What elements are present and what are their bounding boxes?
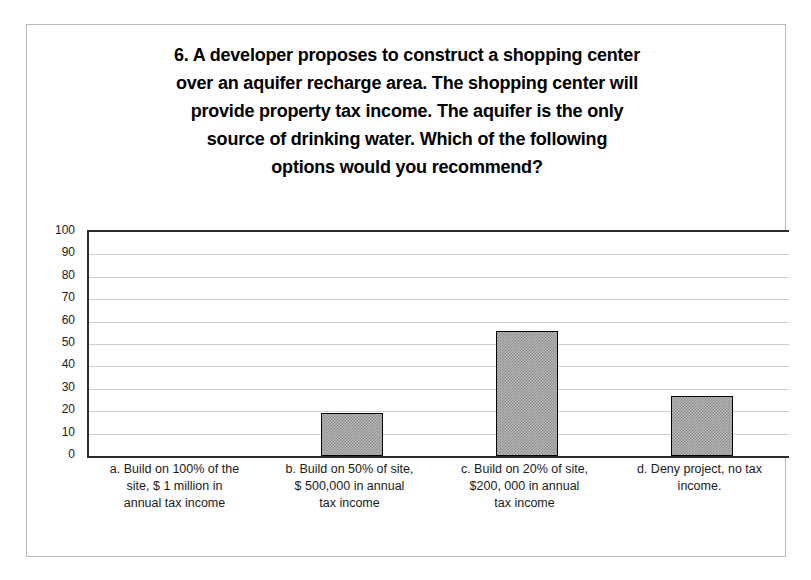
category-label-d-line-2: income. (614, 478, 785, 495)
y-tick-label-100: 100 (27, 225, 75, 235)
y-tick-label-50: 50 (27, 337, 75, 347)
y-tick-label-80: 80 (27, 270, 75, 280)
category-label-d-line-1: d. Deny project, no tax (614, 461, 785, 478)
bar-d[interactable] (671, 396, 733, 456)
bar-slot-d (614, 232, 789, 456)
bar-slot-b (264, 232, 439, 456)
y-tick-label-10: 10 (27, 427, 75, 437)
y-tick-label-40: 40 (27, 359, 75, 369)
y-tick-label-30: 30 (27, 382, 75, 392)
category-label-a-line-1: a. Build on 100% of the (89, 461, 260, 478)
bar-b[interactable] (321, 413, 383, 456)
bar-slot-a (89, 232, 264, 456)
bar-chart: 100 90 80 70 60 50 40 30 20 10 0 (27, 25, 787, 558)
bar-c[interactable] (496, 331, 558, 456)
y-axis: 100 90 80 70 60 50 40 30 20 10 0 (27, 230, 75, 454)
bars-layer (89, 232, 789, 456)
category-label-b-line-1: b. Build on 50% of site, (264, 461, 435, 478)
category-label-b-line-2: $ 500,000 in annual (264, 478, 435, 495)
slide-frame: 6. A developer proposes to construct a s… (26, 24, 786, 557)
category-label-c-line-1: c. Build on 20% of site, (439, 461, 610, 478)
y-tick-label-70: 70 (27, 292, 75, 302)
y-tick-label-90: 90 (27, 247, 75, 257)
category-label-c-line-2: $200, 000 in annual (439, 478, 610, 495)
category-label-b-line-3: tax income (264, 495, 435, 512)
x-axis: a. Build on 100% of the site, $ 1 millio… (87, 461, 787, 512)
category-label-a-line-3: annual tax income (89, 495, 260, 512)
category-label-d: d. Deny project, no tax income. (612, 461, 787, 512)
y-tick-label-0: 0 (27, 449, 75, 459)
plot-area (87, 230, 789, 458)
category-label-c: c. Build on 20% of site, $200, 000 in an… (437, 461, 612, 512)
category-label-b: b. Build on 50% of site, $ 500,000 in an… (262, 461, 437, 512)
category-label-a-line-2: site, $ 1 million in (89, 478, 260, 495)
y-tick-label-20: 20 (27, 404, 75, 414)
category-label-a: a. Build on 100% of the site, $ 1 millio… (87, 461, 262, 512)
category-label-c-line-3: tax income (439, 495, 610, 512)
y-tick-label-60: 60 (27, 315, 75, 325)
bar-slot-c (439, 232, 614, 456)
